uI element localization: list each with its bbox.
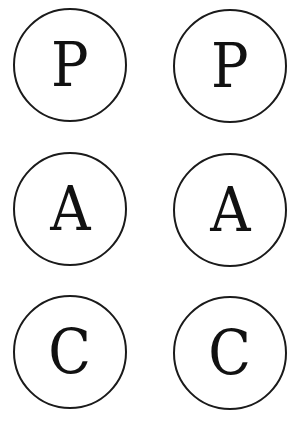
symbol-letter: A	[50, 178, 90, 240]
symbol-letter: P	[211, 35, 249, 97]
symbol-letter: A	[210, 179, 250, 241]
symbol-letter: C	[209, 322, 252, 384]
circled-symbol-c-right: C	[173, 296, 287, 410]
symbol-letter: P	[51, 34, 89, 96]
circled-symbol-p-left: P	[13, 8, 127, 122]
circled-symbol-a-right: A	[173, 153, 287, 267]
circled-symbol-p-right: P	[173, 9, 287, 123]
symbol-letter: C	[49, 321, 92, 383]
circled-symbol-a-left: A	[13, 152, 127, 266]
circled-symbol-c-left: C	[13, 295, 127, 409]
